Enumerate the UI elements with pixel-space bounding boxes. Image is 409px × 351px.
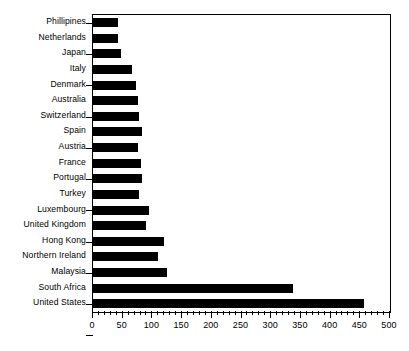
x-axis-tick-label: 300 <box>263 320 278 330</box>
x-axis-minor-tick <box>223 311 224 315</box>
bar-row <box>93 31 390 47</box>
x-axis-major-tick <box>151 311 152 318</box>
bar <box>93 143 138 152</box>
x-axis-minor-tick <box>377 311 378 315</box>
y-axis-label: Luxembourg <box>37 202 86 218</box>
x-axis-minor-tick <box>246 311 247 315</box>
x-axis-major-tick <box>241 311 242 318</box>
x-axis-minor-tick <box>104 311 105 315</box>
x-axis-minor-tick <box>258 311 259 315</box>
x-axis-minor-tick <box>264 311 265 315</box>
x-axis-minor-tick <box>294 311 295 315</box>
x-axis-minor-tick <box>235 311 236 315</box>
y-axis-tick <box>86 304 93 305</box>
y-axis-label: United Kingdom <box>23 217 86 233</box>
x-axis-minor-tick <box>318 311 319 315</box>
y-axis-label: Phillipines <box>46 14 86 30</box>
x-axis-major-tick <box>330 311 331 318</box>
x-axis-minor-tick <box>98 311 99 315</box>
bar <box>93 159 141 168</box>
bar-row <box>93 187 390 203</box>
x-axis-tick-label: 400 <box>322 320 337 330</box>
x-axis-tick-label: 200 <box>203 320 218 330</box>
bar <box>93 206 149 215</box>
bar-row <box>93 46 390 62</box>
x-axis-minor-tick <box>324 311 325 315</box>
x-axis-minor-tick <box>175 311 176 315</box>
bar <box>93 268 167 277</box>
bar-row <box>93 281 390 297</box>
x-axis-minor-tick <box>116 311 117 315</box>
y-axis-label: Japan <box>62 45 86 61</box>
x-axis-minor-tick <box>217 311 218 315</box>
y-axis-label: Portugal <box>53 170 86 186</box>
x-axis-minor-tick <box>193 311 194 315</box>
x-axis-minor-tick <box>365 311 366 315</box>
bar-row <box>93 140 390 156</box>
x-axis-minor-tick <box>371 311 372 315</box>
y-axis-label: Denmark <box>50 77 86 93</box>
x-axis-minor-tick <box>205 311 206 315</box>
y-axis-tick <box>86 117 93 118</box>
bar-row <box>93 62 390 78</box>
bar-row <box>93 78 390 94</box>
y-axis-label: South Africa <box>38 280 86 296</box>
bar <box>93 127 142 136</box>
x-axis-major-tick <box>211 311 212 318</box>
x-axis-minor-tick <box>229 311 230 315</box>
x-axis-major-tick <box>389 311 390 318</box>
x-axis-minor-tick <box>169 311 170 315</box>
y-axis-tick <box>86 148 93 149</box>
bar <box>93 190 139 199</box>
x-axis-major-tick <box>359 311 360 318</box>
y-axis-label: Turkey <box>59 186 86 202</box>
bar-row <box>93 124 390 140</box>
bar <box>93 112 139 121</box>
y-axis-label: Switzerland <box>40 108 86 124</box>
x-axis-major-tick <box>270 311 271 318</box>
x-axis-major-tick <box>300 311 301 318</box>
bar <box>93 174 142 183</box>
y-axis-label: United States <box>33 295 86 311</box>
y-axis-tick <box>86 54 93 55</box>
horizontal-bar-chart: PhillipinesNetherlandsJapanItalyDenmarkA… <box>0 0 409 351</box>
x-axis-minor-tick <box>353 311 354 315</box>
bar-row <box>93 249 390 265</box>
x-axis-minor-tick <box>336 311 337 315</box>
bar <box>93 65 132 74</box>
x-axis-minor-tick <box>312 311 313 315</box>
bar <box>93 237 164 246</box>
bar-row <box>93 156 390 172</box>
y-axis-label: Australia <box>52 92 86 108</box>
x-axis-tick-label: 250 <box>233 320 248 330</box>
x-axis-minor-tick <box>282 311 283 315</box>
x-axis-tick-label: 100 <box>144 320 159 330</box>
bar <box>93 18 118 27</box>
x-axis-minor-tick <box>306 311 307 315</box>
x-axis-tick-labels: 050100150200250300350400450500 <box>0 320 409 336</box>
bar <box>93 34 118 43</box>
x-axis-minor-tick <box>252 311 253 315</box>
x-axis-tick-label: 50 <box>117 320 127 330</box>
x-axis-major-tick <box>181 311 182 318</box>
bar <box>93 49 121 58</box>
x-axis-minor-tick <box>187 311 188 315</box>
y-axis-label: Austria <box>59 139 86 155</box>
y-axis-label: Netherlands <box>39 30 86 46</box>
x-axis-minor-tick <box>347 311 348 315</box>
x-axis-minor-tick <box>140 311 141 315</box>
x-axis-minor-tick <box>145 311 146 315</box>
x-axis-minor-tick <box>134 311 135 315</box>
x-axis-tick-label: 350 <box>292 320 307 330</box>
x-axis-minor-tick <box>199 311 200 315</box>
x-axis-minor-tick <box>288 311 289 315</box>
x-axis-major-tick <box>92 311 93 318</box>
bar-row <box>93 218 390 234</box>
bar-row <box>93 171 390 187</box>
y-axis-label: Malaysia <box>51 264 86 280</box>
bar <box>93 299 364 308</box>
y-axis-label: Spain <box>64 123 86 139</box>
bar <box>93 221 146 230</box>
y-axis-tick <box>86 85 93 86</box>
bar <box>93 284 293 293</box>
